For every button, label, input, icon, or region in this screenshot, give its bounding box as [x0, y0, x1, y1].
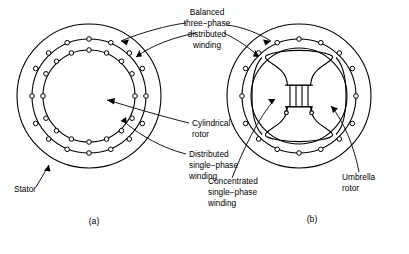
label-umbrella-line1: Umbrella — [342, 172, 376, 182]
label-balanced-line2: three−phase — [184, 18, 231, 28]
stator-bore-circle-a — [32, 39, 146, 153]
arrowhead-cylindrical — [107, 98, 115, 105]
leader-balanced-to-a — [121, 23, 186, 41]
label-balanced-three-phase-winding: Balanced three−phase distributed winding — [184, 7, 231, 50]
machine-a-group — [17, 24, 161, 168]
arrowhead-stator — [44, 165, 51, 172]
stator-outer-circle-a — [17, 24, 161, 168]
leader-cylindrical-rotor — [107, 100, 189, 123]
label-umbrella-line2: rotor — [342, 183, 359, 193]
arrowhead-distributed — [121, 117, 128, 124]
arrowhead-concentrated — [268, 99, 275, 105]
stator-outer-circle-b — [227, 24, 371, 168]
terminal-right — [310, 111, 314, 115]
label-cylindrical-rotor: Cylindrical rotor — [192, 118, 230, 139]
label-cylindrical-line1: Cylindrical — [192, 118, 230, 128]
label-balanced-line1: Balanced — [190, 7, 225, 17]
stator-bore-circle-b — [242, 39, 356, 153]
terminal-left — [285, 111, 289, 115]
caption-a: (a) — [89, 216, 100, 226]
label-concentrated-line2: single−phase — [208, 187, 258, 197]
stator-slots-a — [30, 37, 149, 156]
label-concentrated-single-phase-winding: Concentrated single−phase winding — [207, 176, 258, 208]
label-balanced-line4: winding — [192, 40, 222, 50]
concentrated-winding-b — [285, 85, 314, 115]
label-distributed-line2: single−phase — [189, 160, 239, 170]
label-cylindrical-line2: rotor — [192, 129, 209, 139]
arrowhead-umbrella — [331, 106, 338, 113]
label-distributed-line1: Distributed — [189, 149, 229, 159]
label-umbrella-rotor: Umbrella rotor — [342, 172, 376, 193]
leader-umbrella-rotor — [331, 106, 359, 172]
upper-pole-shoe-b — [265, 50, 332, 85]
label-stator: Stator — [14, 184, 36, 194]
rotor-inner-outline-right-b — [336, 58, 346, 135]
label-concentrated-line1: Concentrated — [208, 176, 258, 186]
label-stator-line1: Stator — [14, 184, 36, 194]
label-concentrated-line3: winding — [207, 198, 237, 208]
rotor-slots-a — [41, 48, 138, 145]
label-balanced-line3: distributed — [188, 29, 227, 39]
rotor-body-circle-b — [251, 48, 347, 144]
machine-b-group — [227, 24, 371, 168]
machine-cross-section-figure: Balanced three−phase distributed winding… — [0, 0, 409, 254]
lower-pole-shoe-b — [265, 107, 332, 142]
rotor-inner-outline-left-b — [252, 58, 262, 135]
caption-b: (b) — [307, 214, 318, 224]
